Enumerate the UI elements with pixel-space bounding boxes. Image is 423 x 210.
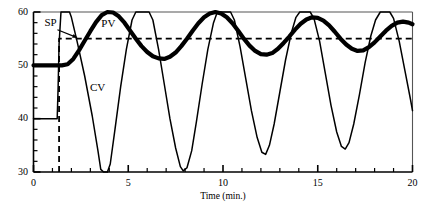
series-annotation-sp: SP	[44, 17, 56, 28]
x-axis-tick-label: 15	[306, 178, 330, 188]
series-annotation-pv: PV	[101, 18, 115, 29]
y-axis-tick-label: 60	[4, 7, 28, 17]
chart-container: 3040506005101520Time (min.)SPPVCV	[0, 0, 423, 210]
x-axis-title: Time (min.)	[173, 192, 273, 202]
series-annotation-cv: CV	[90, 82, 105, 93]
x-axis-tick-label: 0	[22, 178, 46, 188]
x-axis-tick-label: 5	[116, 178, 140, 188]
x-axis-tick-label: 20	[401, 178, 423, 188]
y-axis-tick-label: 40	[4, 113, 28, 123]
y-axis-tick-label: 30	[4, 167, 28, 177]
y-axis-tick-label: 50	[4, 60, 28, 70]
x-axis-tick-label: 10	[211, 178, 235, 188]
